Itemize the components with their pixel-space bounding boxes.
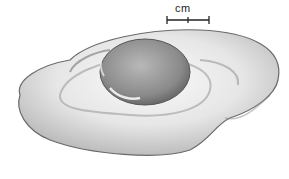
scale-bar bbox=[167, 16, 209, 24]
scale-bar-label: cm bbox=[175, 2, 191, 14]
egg-yolk bbox=[100, 39, 190, 105]
fried-egg-illustration bbox=[0, 0, 289, 179]
